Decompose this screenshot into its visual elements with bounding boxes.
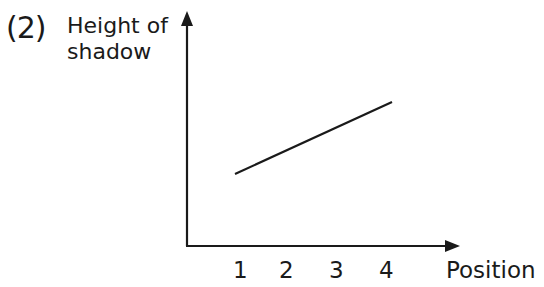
chart-plot-area bbox=[0, 0, 544, 287]
data-line bbox=[235, 102, 392, 174]
x-tick-1: 1 bbox=[233, 257, 248, 283]
y-axis-arrow-icon bbox=[181, 11, 193, 26]
x-axis-label: Position bbox=[446, 257, 536, 283]
x-axis-arrow-icon bbox=[445, 240, 460, 252]
x-tick-2: 2 bbox=[279, 257, 294, 283]
x-tick-3: 3 bbox=[329, 257, 344, 283]
x-tick-4: 4 bbox=[379, 257, 394, 283]
